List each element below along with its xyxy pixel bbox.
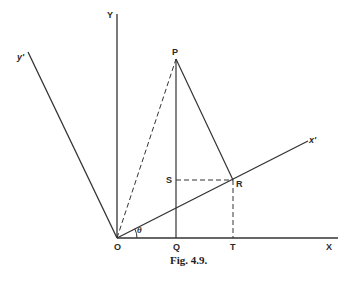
x-prime-axis-label: x' [309, 136, 316, 145]
point-p-label: P [172, 48, 178, 57]
y-axis-label: Y [107, 11, 113, 20]
y-prime-axis-label: y' [17, 53, 24, 62]
x-prime-axis [117, 141, 308, 238]
point-q-label: Q [173, 243, 180, 252]
point-s-label: S [166, 176, 172, 185]
figure-caption: Fig. 4.9. [170, 254, 207, 266]
origin-label: O [114, 243, 121, 252]
y-prime-axis [28, 52, 117, 238]
point-t-label: T [230, 243, 236, 252]
op-dashed-line [117, 59, 176, 238]
x-axis-label: X [326, 243, 332, 252]
theta-label: θ [137, 226, 142, 235]
figure-canvas: Y X y' x' P S R O Q T θ Fig. 4.9. [0, 0, 352, 284]
point-r-label: R [236, 180, 243, 189]
pr-line [176, 59, 233, 180]
